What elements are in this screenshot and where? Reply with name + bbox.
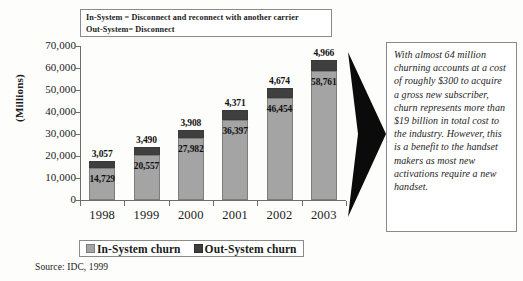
plot-area: (Millions) 70,00060,00050,00040,00030,00… — [0, 0, 370, 235]
legend-label: In-System churn — [97, 243, 181, 255]
bar-value-label-in-system: 46,454 — [253, 104, 307, 114]
legend-label: Out-System churn — [205, 243, 297, 255]
bar-segment-in-system — [89, 168, 115, 200]
chart-figure: In-System = Disconnect and reconnect wit… — [0, 0, 523, 281]
x-axis-tick-mark — [213, 201, 214, 206]
bar-value-label-in-system: 20,557 — [120, 161, 174, 171]
chart-legend: In-System churnOut-System churn — [79, 240, 304, 257]
source-note: Source: IDC, 1999 — [35, 262, 108, 272]
x-axis-tick-mark — [80, 201, 81, 206]
y-axis-tick-label: 70,000 — [24, 40, 76, 51]
bar-segment-out-system — [134, 147, 160, 155]
x-axis-category-label: 2003 — [297, 208, 351, 223]
legend-swatch-icon — [86, 244, 95, 253]
bar-value-label-out-system: 3,057 — [75, 149, 129, 159]
callout-text: With almost 64 million churning accounts… — [394, 48, 509, 193]
bar-segment-out-system — [178, 130, 204, 139]
legend-item: Out-System churn — [194, 243, 297, 255]
callout-box: With almost 64 million churning accounts… — [386, 42, 517, 232]
bar-value-label-in-system: 36,397 — [208, 126, 262, 136]
bar-segment-in-system — [311, 71, 337, 200]
bar-segment-out-system — [311, 60, 337, 71]
bar-value-label-in-system: 27,982 — [164, 144, 218, 154]
y-axis-tick-label: 40,000 — [24, 106, 76, 117]
bar-segment-out-system — [89, 161, 115, 168]
bar-series-container: 14,7293,05720,5573,49027,9823,90836,3974… — [80, 46, 346, 200]
bar-value-label-in-system: 14,729 — [75, 174, 129, 184]
bar-value-label-out-system: 4,966 — [297, 48, 351, 58]
x-axis-tick-mark — [302, 201, 303, 206]
y-axis-tick-label: 20,000 — [24, 150, 76, 161]
y-axis-tick-label: 50,000 — [24, 84, 76, 95]
x-axis-tick-mark — [124, 201, 125, 206]
y-axis-tick-label: 10,000 — [24, 172, 76, 183]
y-axis-tick-labels: 70,00060,00050,00040,00030,00020,00010,0… — [20, 0, 76, 235]
legend-item: In-System churn — [86, 243, 181, 255]
y-axis-tick-label: 30,000 — [24, 128, 76, 139]
bar-value-label-in-system: 58,761 — [297, 77, 351, 87]
x-axis-tick-mark — [169, 201, 170, 206]
y-axis-tick-label: 60,000 — [24, 62, 76, 73]
callout-arrow-icon — [346, 52, 386, 217]
y-axis-tick-label: 0 — [24, 194, 76, 205]
bar-segment-out-system — [222, 110, 248, 120]
legend-swatch-icon — [194, 244, 203, 253]
bar-segment-out-system — [267, 88, 293, 98]
x-axis-tick-mark — [257, 201, 258, 206]
